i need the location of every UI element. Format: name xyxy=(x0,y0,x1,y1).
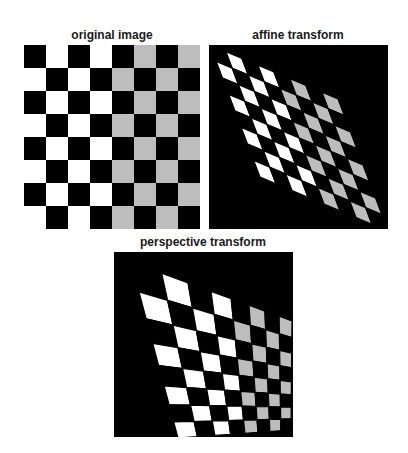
dark-square xyxy=(281,419,291,431)
dark-square xyxy=(204,371,225,390)
light-square xyxy=(280,380,291,394)
dark-square xyxy=(239,375,255,392)
dark-square xyxy=(280,366,292,382)
dark-square xyxy=(90,206,112,229)
dark-square xyxy=(178,160,200,183)
dark-square xyxy=(255,392,269,406)
perspective-transformed-image xyxy=(114,252,293,437)
dark-square xyxy=(24,183,46,206)
dark-square xyxy=(46,68,68,91)
dark-square xyxy=(134,68,156,91)
light-square xyxy=(112,114,134,137)
light-square xyxy=(256,407,269,420)
light-square xyxy=(222,373,240,391)
light-square xyxy=(156,206,178,229)
light-square xyxy=(156,68,178,91)
dark-square xyxy=(68,137,90,160)
dark-square xyxy=(112,45,134,68)
light-square xyxy=(280,350,292,368)
light-square xyxy=(134,183,156,206)
light-square xyxy=(112,68,134,91)
light-square xyxy=(178,91,200,114)
light-square xyxy=(156,160,178,183)
dark-square xyxy=(68,91,90,114)
dark-square xyxy=(280,394,291,407)
light-square xyxy=(227,406,244,421)
dark-square xyxy=(187,388,210,406)
dark-square xyxy=(225,390,243,406)
dark-square xyxy=(242,406,257,420)
dark-square xyxy=(156,45,178,68)
light-square xyxy=(134,91,156,114)
light-square xyxy=(134,45,156,68)
dark-square xyxy=(178,114,200,137)
dark-square xyxy=(194,421,215,437)
original-image-title: original image xyxy=(32,28,192,42)
affine-transform-title: affine transform xyxy=(218,28,378,42)
light-square xyxy=(268,393,280,407)
dark-square xyxy=(156,137,178,160)
light-square xyxy=(174,421,198,437)
light-square xyxy=(200,352,222,374)
light-square xyxy=(178,137,200,160)
light-square xyxy=(244,420,258,433)
dark-square xyxy=(269,407,281,420)
dark-square xyxy=(112,91,134,114)
dark-square xyxy=(24,45,46,68)
dark-square xyxy=(134,206,156,229)
light-square xyxy=(191,405,213,421)
light-square xyxy=(281,407,292,419)
dark-square xyxy=(134,114,156,137)
light-square xyxy=(237,358,254,377)
light-square xyxy=(269,419,280,431)
dark-square xyxy=(68,45,90,68)
dark-square xyxy=(156,183,178,206)
dark-square xyxy=(134,160,156,183)
dark-square xyxy=(90,160,112,183)
light-square xyxy=(267,364,280,381)
dark-square xyxy=(90,68,112,91)
light-square xyxy=(241,391,257,406)
light-square xyxy=(207,389,227,406)
dark-square xyxy=(169,405,194,422)
dark-square xyxy=(220,355,239,375)
dark-square xyxy=(178,206,200,229)
light-square xyxy=(254,377,268,393)
light-square xyxy=(112,160,134,183)
light-square xyxy=(134,137,156,160)
dark-square xyxy=(266,347,280,366)
dark-square xyxy=(112,137,134,160)
dark-square xyxy=(46,206,68,229)
dark-square xyxy=(46,160,68,183)
dark-square xyxy=(24,91,46,114)
dark-square xyxy=(46,114,68,137)
dark-square xyxy=(112,183,134,206)
dark-square xyxy=(229,420,245,434)
light-square xyxy=(156,114,178,137)
light-square xyxy=(178,45,200,68)
original-checkerboard-image xyxy=(24,45,200,229)
dark-square xyxy=(253,361,268,379)
dark-square xyxy=(68,183,90,206)
dark-square xyxy=(90,114,112,137)
affine-transformed-image xyxy=(209,45,388,229)
light-square xyxy=(252,344,267,364)
perspective-transform-title: perspective transform xyxy=(123,235,283,249)
dark-square xyxy=(178,68,200,91)
light-square xyxy=(212,421,230,436)
light-square xyxy=(178,183,200,206)
light-square xyxy=(112,206,134,229)
dark-square xyxy=(24,137,46,160)
dark-square xyxy=(268,379,281,394)
dark-square xyxy=(257,419,270,432)
dark-square xyxy=(210,406,229,421)
dark-square xyxy=(156,91,178,114)
